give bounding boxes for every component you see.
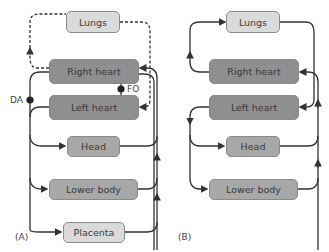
node-b-head: Head [226, 136, 280, 157]
node-b-left-heart: Left heart [209, 95, 299, 120]
node-a-right-heart: Right heart [49, 59, 139, 84]
panel-a-label: (A) [15, 232, 28, 242]
node-a-head: Head [67, 136, 120, 157]
node-b-lower-body: Lower body [209, 179, 298, 200]
da-dot [26, 96, 33, 103]
node-a-left-heart: Left heart [49, 95, 139, 120]
fo-label: FO [127, 84, 139, 94]
circulation-connectors [0, 0, 329, 252]
panel-b-label: (B) [178, 232, 191, 242]
node-a-lower-body: Lower body [49, 179, 138, 200]
da-label: DA [10, 95, 23, 105]
node-b-right-heart: Right heart [209, 59, 299, 84]
node-a-lungs: Lungs [66, 11, 120, 33]
node-b-lungs: Lungs [226, 11, 280, 33]
node-a-placenta: Placenta [63, 222, 125, 243]
fo-dot [117, 85, 124, 92]
